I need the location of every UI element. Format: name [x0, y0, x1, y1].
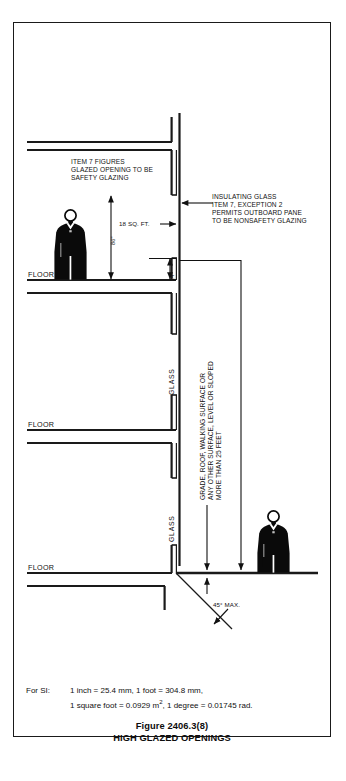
figure-caption-title: HIGH GLAZED OPENINGS [13, 733, 331, 743]
dimension-14-label: 14" [169, 272, 176, 281]
si-line-2-part-b: , 1 degree = 0.01745 rad. [163, 701, 253, 710]
area-18sqft-label: 18 SQ. FT. [119, 220, 150, 228]
si-line-1: 1 inch = 25.4 mm, 1 foot = 304.8 mm, [70, 686, 203, 695]
surface-note-line-2: ANY OTHER SURFACE, LEVEL OR SLOPED [207, 361, 215, 500]
si-line-2-part-a: 1 square foot = 0.0929 m [70, 701, 159, 710]
si-prefix: For SI: [26, 686, 50, 695]
floor-label-1: FLOOR [28, 271, 54, 280]
angle-45-max-label: 45° MAX. [213, 601, 240, 609]
person-figure-interior [54, 210, 86, 280]
insulating-glass-note: INSULATING GLASS ITEM 7, EXCEPTION 2 PER… [212, 193, 307, 225]
item7-note: ITEM 7 FIGURES GLAZED OPENING TO BE SAFE… [71, 158, 153, 182]
surface-note-line-3: MORE THAN 25 FEET [215, 431, 223, 500]
glass-label-2: GLASS [168, 515, 176, 542]
dimension-86-label: 86" [110, 236, 117, 245]
figure-caption-number: Figure 2406.3(8) [13, 721, 331, 731]
surface-note-line-1: GRADE, ROOF, WALKING SURFACE OR [199, 373, 207, 500]
glass-label-1: GLASS [168, 368, 176, 395]
si-line-2: 1 square foot = 0.0929 m2, 1 degree = 0.… [70, 699, 253, 710]
figure-page: ITEM 7 FIGURES GLAZED OPENING TO BE SAFE… [0, 0, 346, 781]
floor-label-2: FLOOR [28, 421, 54, 430]
person-figure-exterior [257, 511, 289, 573]
leader-45-max [214, 609, 228, 624]
floor-label-3: FLOOR [28, 564, 54, 573]
